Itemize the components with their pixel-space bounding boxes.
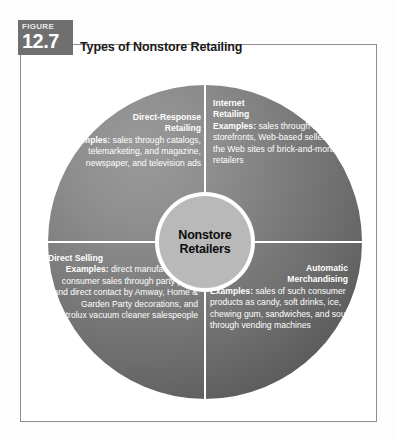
quadrant-heading-line1: Direct-Response bbox=[56, 112, 201, 123]
quadrant-examples: Examples: sales through catalogs, telema… bbox=[56, 135, 201, 169]
center-label-line1: Nonstore bbox=[178, 228, 231, 242]
quadrant-heading-line2: Retailing bbox=[213, 109, 358, 120]
quadrant-examples: Examples: sales through virtual storefro… bbox=[213, 121, 358, 167]
quadrant-direct-response-retailing: Direct-Response Retailing Examples: sale… bbox=[56, 112, 205, 169]
examples-label: Examples: bbox=[67, 135, 110, 145]
figure-badge-number: 12.7 bbox=[22, 31, 73, 52]
figure-title: Types of Nonstore Retailing bbox=[80, 40, 242, 54]
figure-number-badge: FIGURE 12.7 bbox=[18, 20, 73, 55]
quadrant-examples: Examples: sales of such consumer product… bbox=[210, 286, 360, 332]
center-label-line2: Retailers bbox=[178, 242, 231, 256]
nonstore-retailing-diagram: Direct-Response Retailing Examples: sale… bbox=[48, 85, 362, 399]
quadrant-heading-line1: Internet bbox=[213, 98, 358, 109]
center-label: Nonstore Retailers bbox=[178, 228, 231, 256]
figure-root: FIGURE 12.7 Types of Nonstore Retailing … bbox=[0, 0, 395, 440]
quadrant-internet-retailing: Internet Retailing Examples: sales throu… bbox=[211, 98, 358, 166]
examples-label: Examples: bbox=[66, 264, 109, 274]
examples-label: Examples: bbox=[213, 121, 256, 131]
quadrant-heading-line2: Retailing bbox=[56, 123, 201, 134]
center-circle: Nonstore Retailers bbox=[159, 196, 251, 288]
